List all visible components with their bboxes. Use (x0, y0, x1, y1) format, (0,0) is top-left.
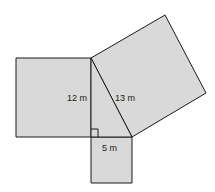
pythagorean-diagram: 12 m 13 m 5 m (0, 0, 215, 192)
label-5m: 5 m (102, 143, 117, 153)
label-13m: 13 m (115, 93, 135, 103)
label-12m: 12 m (67, 93, 87, 103)
